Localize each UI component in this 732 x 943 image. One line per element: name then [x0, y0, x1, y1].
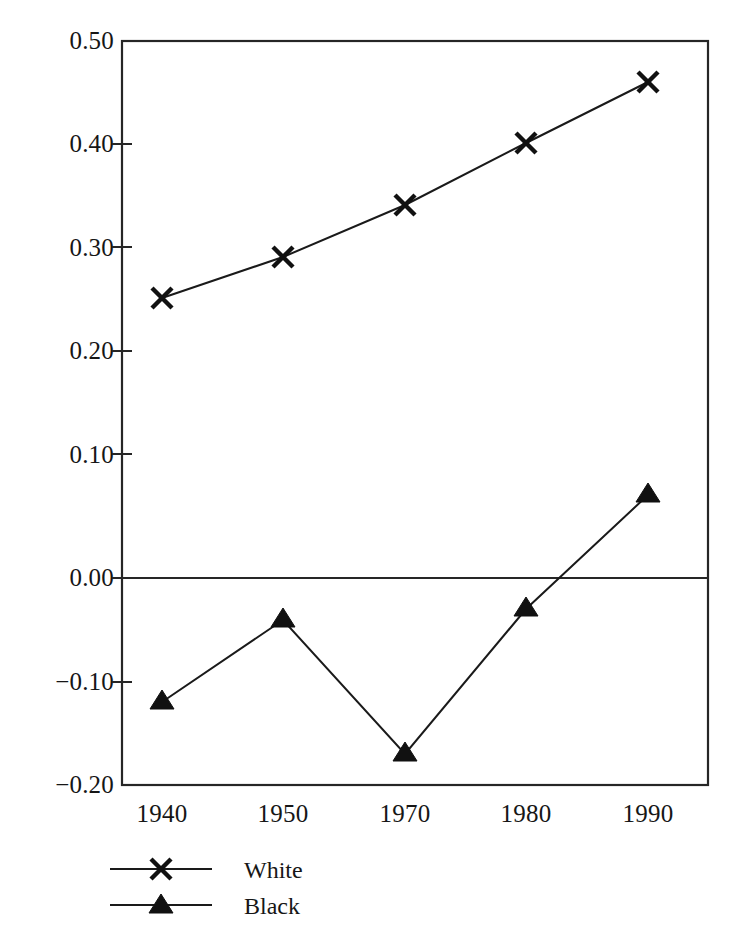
data-point-white-1990	[638, 72, 658, 92]
data-point-black-1990	[636, 483, 660, 502]
legend-sample-black	[110, 894, 212, 913]
data-point-black-1940	[150, 690, 174, 709]
legend-sample-white	[110, 859, 212, 879]
series-markers-black	[150, 483, 660, 761]
figure-container: 0.50 0.40 0.30 0.20 0.10 0.00 −0.10 −0.2…	[0, 0, 732, 943]
series-line-black	[162, 495, 648, 754]
data-point-black-1950	[271, 608, 295, 627]
series-line-white	[162, 82, 648, 298]
data-point-white-1950	[273, 247, 293, 267]
chart-canvas	[0, 0, 732, 943]
data-point-white-1980	[516, 133, 536, 153]
data-point-white-1940	[152, 288, 172, 308]
series-markers-white	[152, 72, 658, 308]
data-point-white-1970	[395, 195, 415, 215]
plot-frame	[122, 41, 708, 785]
caption-fragment	[0, 928, 732, 943]
